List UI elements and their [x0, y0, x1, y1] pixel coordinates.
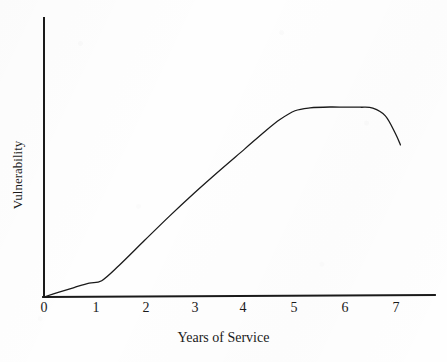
chart-figure: 0 1 2 3 4 5 6 7 Years of Service Vulnera… [0, 0, 447, 362]
x-tick-label-1: 1 [86, 301, 106, 315]
vulnerability-curve [44, 107, 400, 297]
x-tick-label-5: 5 [284, 301, 304, 315]
x-axis-line [43, 295, 435, 297]
y-axis-title: Vulnerability [10, 141, 26, 210]
x-tick-label-6: 6 [335, 301, 355, 315]
x-tick-label-2: 2 [136, 301, 156, 315]
x-tick-label-0: 0 [34, 301, 54, 315]
x-axis-title: Years of Service [0, 330, 447, 346]
x-tick-label-3: 3 [185, 301, 205, 315]
x-tick-label-4: 4 [233, 301, 253, 315]
x-tick-label-7: 7 [386, 301, 406, 315]
plot-area [0, 0, 447, 362]
